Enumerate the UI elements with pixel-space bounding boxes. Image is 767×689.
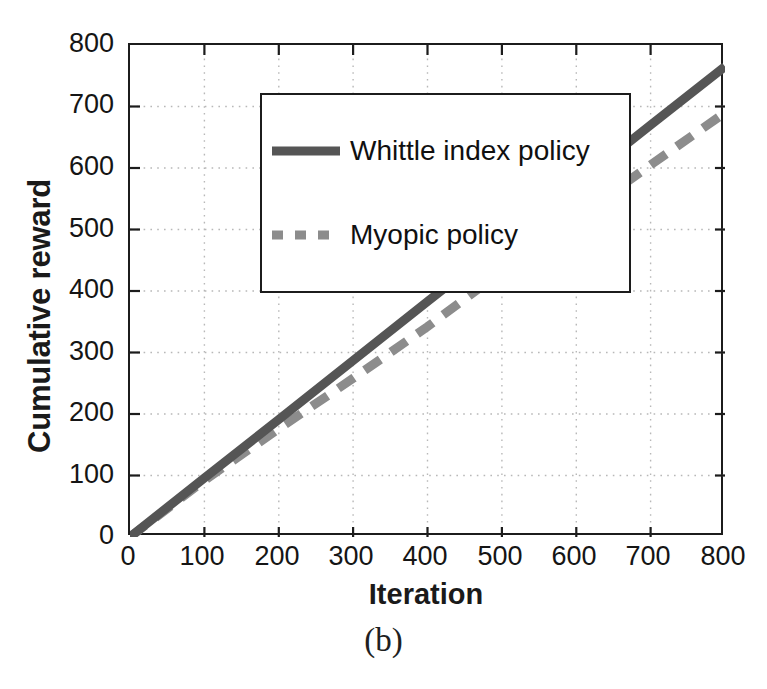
plot-area: Whittle index policy Myopic policy: [128, 43, 723, 535]
y-tick-label: 700: [4, 89, 114, 120]
x-axis-ticks-top: [204, 45, 650, 55]
x-axis-ticks: [204, 527, 650, 537]
legend-entry: Myopic policy: [262, 215, 629, 255]
chart-legend: Whittle index policy Myopic policy: [260, 93, 631, 293]
y-tick-label: 300: [4, 336, 114, 367]
y-tick-label: 100: [4, 459, 114, 490]
legend-entry: Whittle index policy: [262, 131, 629, 171]
y-tick-label: 400: [4, 274, 114, 305]
figure-caption: (b): [0, 622, 767, 659]
solid-line-swatch: [272, 137, 340, 165]
figure-panel: Cumulative reward 800 700 600 500 400 30…: [0, 0, 767, 689]
x-tick-label: 800: [663, 541, 767, 572]
y-tick-label: 800: [4, 28, 114, 59]
legend-entry-label: Whittle index policy: [350, 137, 590, 165]
y-axis-ticks-right: [715, 107, 725, 476]
y-axis-ticks: [130, 107, 140, 476]
legend-entry-label: Myopic policy: [350, 221, 518, 249]
y-tick-label: 500: [4, 213, 114, 244]
y-tick-label: 200: [4, 397, 114, 428]
dashed-line-swatch: [272, 221, 340, 249]
y-tick-label: 600: [4, 151, 114, 182]
x-axis-label: Iteration: [128, 578, 724, 611]
